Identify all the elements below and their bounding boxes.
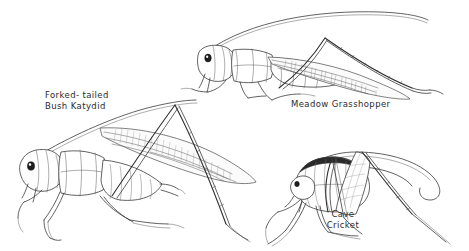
label-forked-tailed-bush-katydid: Forked- tailed Bush Katydid <box>45 90 109 112</box>
figure-forked-tailed-bush-katydid <box>18 100 256 242</box>
figure-meadow-grasshopper <box>181 12 443 100</box>
illustration-plate: Forked- tailed Bush Katydid Meadow Grass… <box>0 0 469 251</box>
label-meadow-grasshopper: Meadow Grasshopper <box>291 99 390 110</box>
insect-plate-artwork <box>0 0 469 251</box>
label-cave-cricket: Cave Cricket <box>318 209 368 231</box>
figure-cave-cricket <box>266 152 450 246</box>
